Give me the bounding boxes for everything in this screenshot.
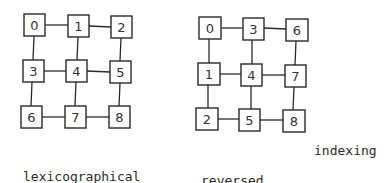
left-node-6: 6 — [21, 106, 42, 128]
right-caption-line1: reversed — [201, 173, 311, 183]
node-label: 8 — [115, 110, 123, 125]
left-node-4: 4 — [66, 60, 87, 82]
indexing-label: indexing — [314, 143, 377, 158]
left-node-7: 7 — [65, 106, 86, 128]
node-label: 0 — [206, 21, 214, 36]
node-label: 3 — [249, 22, 257, 37]
right-node-8: 8 — [283, 110, 305, 132]
left-caption-line1: lexicographical — [23, 169, 140, 183]
node-label: 2 — [117, 20, 125, 35]
right-node-3: 3 — [243, 18, 264, 40]
node-label: 6 — [293, 23, 301, 38]
node-label: 8 — [290, 114, 298, 129]
node-label: 7 — [71, 110, 79, 125]
left-node-5: 5 — [110, 61, 131, 83]
right-node-6: 6 — [286, 19, 308, 41]
node-label: 7 — [291, 69, 299, 84]
node-label: 5 — [116, 65, 124, 80]
left-caption: lexicographical (row-major) — [23, 139, 140, 183]
left-node-1: 1 — [68, 15, 89, 37]
left-node-8: 8 — [109, 106, 130, 128]
node-label: 6 — [27, 110, 35, 125]
node-label: 0 — [30, 18, 38, 33]
right-grid: 0 3 6 1 4 7 2 5 8 — [196, 17, 308, 132]
node-label: 4 — [247, 68, 255, 83]
node-label: 1 — [74, 19, 82, 34]
left-node-0: 0 — [24, 14, 45, 36]
right-node-0: 0 — [199, 17, 221, 39]
left-grid: 0 1 2 3 4 5 6 7 8 — [21, 14, 132, 128]
node-label: 3 — [29, 64, 37, 79]
right-caption: reversed (column-major) — [201, 143, 311, 183]
node-label: 2 — [203, 112, 211, 127]
node-label: 5 — [245, 113, 253, 128]
left-node-2: 2 — [111, 16, 132, 38]
right-node-7: 7 — [285, 65, 306, 87]
node-label: 4 — [72, 64, 80, 79]
right-node-4: 4 — [241, 64, 262, 86]
right-node-5: 5 — [239, 109, 260, 131]
left-node-3: 3 — [23, 60, 44, 82]
right-node-2: 2 — [196, 108, 218, 130]
right-node-1: 1 — [198, 63, 220, 85]
node-label: 1 — [205, 67, 213, 82]
